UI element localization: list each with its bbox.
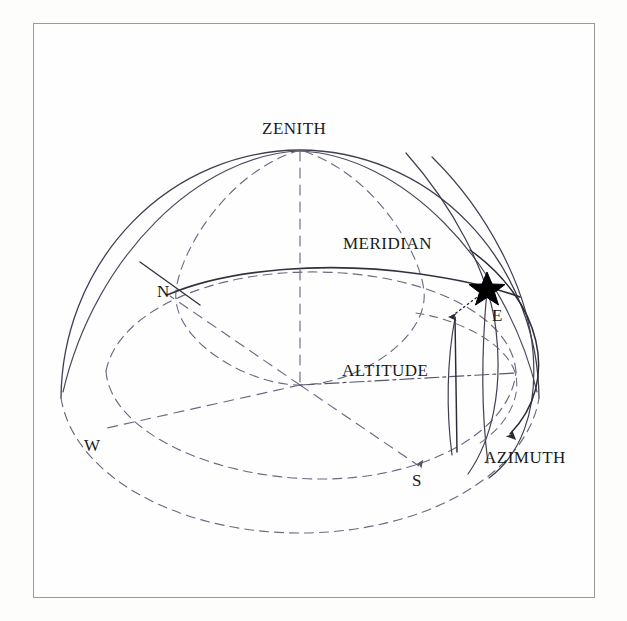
north-point-label: N bbox=[157, 282, 170, 302]
meridian-label: MERIDIAN bbox=[343, 234, 432, 254]
azimuth-label: AZIMUTH bbox=[484, 448, 566, 468]
altitude-label: ALTITUDE bbox=[342, 361, 428, 381]
sphere-limb-lower-dashed bbox=[61, 398, 539, 533]
west-point-label: W bbox=[84, 436, 101, 456]
horizon-solid-arc bbox=[167, 268, 520, 297]
star-marker bbox=[469, 272, 505, 305]
radius-center-north bbox=[170, 296, 300, 385]
radius-center-west bbox=[107, 385, 300, 428]
south-point-label: S bbox=[412, 471, 422, 491]
altitude-arrow bbox=[455, 317, 457, 452]
almucantar-arc-left bbox=[448, 318, 455, 455]
azimuth-arc-arrow bbox=[470, 250, 539, 434]
celestial-sphere-diagram bbox=[0, 0, 627, 621]
figure-page: ZENITH MERIDIAN ALTITUDE AZIMUTH N S E W bbox=[0, 0, 627, 621]
horizon-front-dashed bbox=[106, 371, 516, 479]
radius-center-south bbox=[300, 385, 419, 466]
east-point-label: E bbox=[492, 306, 503, 326]
north-tick-line bbox=[140, 262, 200, 305]
zenith-label: ZENITH bbox=[262, 119, 326, 139]
